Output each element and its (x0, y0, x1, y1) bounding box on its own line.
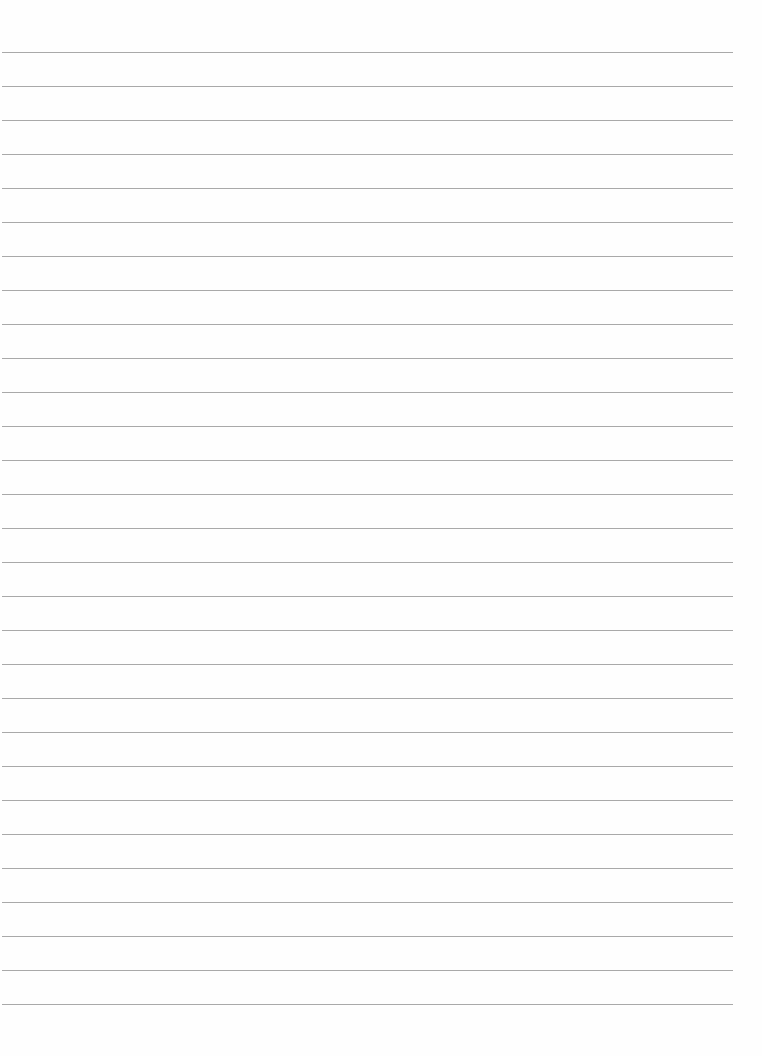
ruled-line (2, 834, 733, 835)
ruled-line (2, 698, 733, 699)
ruled-line (2, 766, 733, 767)
ruled-line (2, 86, 733, 87)
ruled-line (2, 154, 733, 155)
ruled-line (2, 528, 733, 529)
ruled-line (2, 426, 733, 427)
ruled-line (2, 902, 733, 903)
ruled-line (2, 290, 733, 291)
ruled-line (2, 596, 733, 597)
ruled-line (2, 1004, 733, 1005)
ruled-line (2, 358, 733, 359)
ruled-line (2, 460, 733, 461)
ruled-line (2, 324, 733, 325)
ruled-line (2, 256, 733, 257)
ruled-line (2, 732, 733, 733)
ruled-line (2, 494, 733, 495)
ruled-line (2, 970, 733, 971)
ruled-line (2, 630, 733, 631)
ruled-line (2, 562, 733, 563)
ruled-line (2, 52, 733, 53)
ruled-line (2, 664, 733, 665)
ruled-line (2, 392, 733, 393)
ruled-line (2, 120, 733, 121)
ruled-line (2, 800, 733, 801)
ruled-line (2, 868, 733, 869)
ruled-line (2, 936, 733, 937)
ruled-line (2, 188, 733, 189)
ruled-paper-sheet (0, 0, 762, 1056)
ruled-line (2, 222, 733, 223)
